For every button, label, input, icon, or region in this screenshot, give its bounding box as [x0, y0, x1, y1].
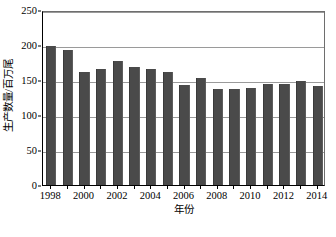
- y-axis-tick-mark: [38, 151, 41, 152]
- x-axis-tick-mark: [50, 186, 51, 189]
- bar: [63, 50, 73, 185]
- bar: [179, 85, 189, 185]
- x-axis-tick-mark: [150, 186, 151, 189]
- bar: [46, 46, 56, 185]
- y-axis-tick-label: 200: [21, 41, 37, 52]
- x-axis-tick-label: 1998: [40, 190, 61, 201]
- x-axis-tick-label: 2000: [73, 190, 94, 201]
- bar: [246, 88, 256, 185]
- bar: [163, 72, 173, 185]
- x-axis-tick-mark: [184, 186, 185, 189]
- x-axis-tick-mark: [167, 186, 168, 189]
- bar: [296, 81, 306, 185]
- bar-chart-figure: 生产数量/百万尾 050100150200250 199820002002200…: [0, 0, 336, 237]
- y-axis-tick-mark: [38, 186, 41, 187]
- x-axis-tick-mark: [200, 186, 201, 189]
- x-axis-tick-mark: [100, 186, 101, 189]
- x-axis-tick-mark: [250, 186, 251, 189]
- x-axis-tick-label: 2006: [173, 190, 194, 201]
- bar: [229, 89, 239, 185]
- bar: [96, 69, 106, 185]
- x-axis-tick-mark: [217, 186, 218, 189]
- y-axis-tick-label: 150: [21, 76, 37, 87]
- y-axis-tick-label: 0: [32, 181, 37, 192]
- plot-area: [42, 11, 325, 186]
- y-axis-tick-mark: [38, 46, 41, 47]
- x-axis-tick-mark: [267, 186, 268, 189]
- x-axis-tick-label: 2012: [273, 190, 294, 201]
- x-axis-tick-mark: [67, 186, 68, 189]
- bar: [279, 84, 289, 186]
- x-axis-tick-mark: [117, 186, 118, 189]
- x-axis-tick-label: 2002: [106, 190, 127, 201]
- bars-group: [43, 12, 324, 185]
- x-axis-tick-mark: [134, 186, 135, 189]
- bar: [213, 89, 223, 185]
- x-axis-tick-label: 2008: [206, 190, 227, 201]
- x-axis-title: 年份: [42, 204, 325, 216]
- x-axis-tick-label: 2004: [140, 190, 161, 201]
- bar: [129, 67, 139, 185]
- y-axis-tick-label: 50: [27, 146, 38, 157]
- y-axis-tick-mark: [38, 116, 41, 117]
- x-axis-tick-mark: [84, 186, 85, 189]
- x-axis-tick-mark: [283, 186, 284, 189]
- y-axis-tick-label: 250: [21, 6, 37, 17]
- bar: [146, 69, 156, 185]
- y-axis-tick-mark: [38, 11, 41, 12]
- x-axis-tick-label: 2014: [306, 190, 327, 201]
- bar: [79, 72, 89, 185]
- bar: [113, 61, 123, 185]
- bar: [263, 84, 273, 185]
- y-axis-tick-labels: 050100150200250: [12, 0, 41, 200]
- bar: [313, 86, 323, 185]
- x-axis-tick-mark: [300, 186, 301, 189]
- y-axis-tick-label: 100: [21, 111, 37, 122]
- x-axis-tick-label: 2010: [240, 190, 261, 201]
- bar: [196, 78, 206, 185]
- x-axis-tick-mark: [317, 186, 318, 189]
- x-axis-tick-mark: [233, 186, 234, 189]
- y-axis-tick-mark: [38, 81, 41, 82]
